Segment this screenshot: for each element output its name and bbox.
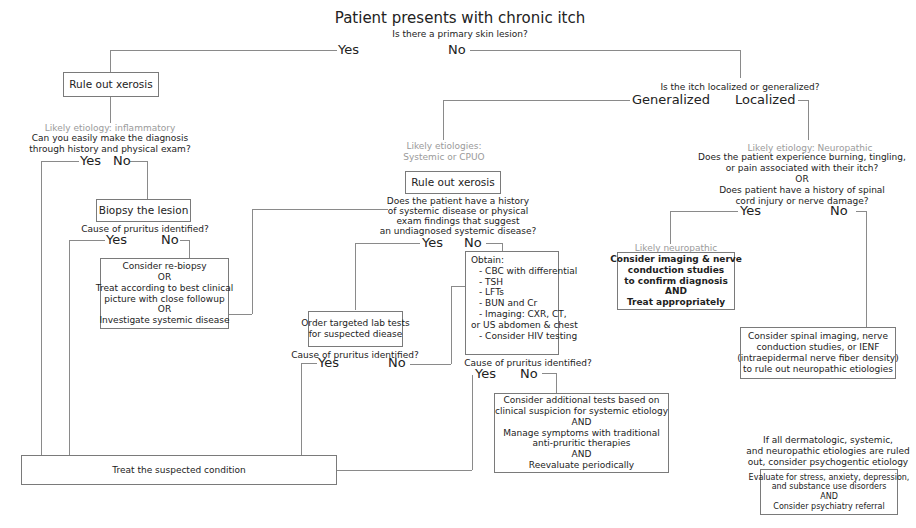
psychogenic-note-line2: and neuropathic etiologies are ruled <box>740 446 916 457</box>
systemic-etiology-label-1: Likely etiologies: <box>384 141 504 152</box>
connector-line <box>486 243 502 244</box>
diagnosis-question-line1: Can you easily make the diagnosis <box>20 133 200 144</box>
connector-line <box>856 211 866 212</box>
box-text: Rule out xerosis <box>69 78 152 91</box>
box-text: Reevaluate periodically <box>529 460 634 471</box>
rule-out-xerosis-generalized-box: Rule out xerosis <box>405 171 501 194</box>
connector-line <box>808 100 809 140</box>
neuro-question-line1: Does the patient experience burning, tin… <box>688 152 916 163</box>
box-text: picture with close followup <box>104 294 224 305</box>
systemic-yes-label: Yes <box>422 236 443 251</box>
connector-line <box>110 50 337 51</box>
box-text: Consider re-biopsy <box>122 261 206 272</box>
connector-line <box>670 211 671 244</box>
connector-line <box>69 240 70 456</box>
box-heading: Obtain: <box>471 255 504 266</box>
box-text: for suspected diease <box>309 329 403 340</box>
box-text: AND <box>665 286 687 297</box>
box-text: Consider psychiatry referral <box>773 502 884 512</box>
treat-condition-box: Treat the suspected condition <box>21 455 337 485</box>
connector-line <box>740 50 741 78</box>
box-text: clinical suspicion for systemic etiology <box>495 406 668 417</box>
psychiatry-evaluation-box: Evaluate for stress, anxiety, depression… <box>760 469 898 515</box>
root-yes-label: Yes <box>338 43 359 58</box>
box-text: and substance use disorders <box>772 482 887 492</box>
neuro-question-line4: cord injury or nerve damage? <box>688 196 916 207</box>
diagnosis-no-label: No <box>113 154 131 169</box>
diagnosis-yes-label: Yes <box>80 154 101 169</box>
box-text: Rule out xerosis <box>411 176 494 189</box>
connector-line <box>472 375 473 470</box>
box-text: anti-pruritic therapies <box>532 438 630 449</box>
box-text: Consider spinal imaging, nerve <box>748 331 888 342</box>
lab-item: or US abdomen & chest <box>471 320 578 331</box>
connector-line <box>798 100 808 101</box>
connector-line <box>41 161 42 456</box>
box-text: AND <box>572 449 592 460</box>
lab-item: - Consider HIV testing <box>471 331 577 342</box>
connector-line <box>502 243 503 251</box>
box-text: Treat according to best clinical <box>96 283 233 294</box>
connector-line <box>301 363 317 364</box>
systemic-etiology-label-2: Systemic or CPUO <box>384 152 504 163</box>
box-text: to confirm diagnosis <box>624 276 728 287</box>
box-text: OR <box>158 304 171 315</box>
box-text: Investigate systemic disease <box>99 315 229 326</box>
obtain-labs-box: Obtain: - CBC with differential - TSH - … <box>465 251 559 355</box>
box-text: Order targeted lab tests <box>301 318 409 329</box>
targeted-yes-label: Yes <box>318 356 339 371</box>
connector-line <box>451 286 465 287</box>
connector-line <box>130 161 147 162</box>
connector-line <box>110 50 111 72</box>
systemic-question-line4: an undiagnosed systemic disease? <box>363 226 553 237</box>
neuro-question-or: OR <box>688 174 916 185</box>
connector-line <box>336 470 472 471</box>
box-text: OR <box>158 272 171 283</box>
root-title: Patient presents with chronic itch <box>300 10 620 27</box>
box-text: to rule out neuropathic etiologies <box>743 364 893 375</box>
box-text: Consider imaging & nerve <box>610 254 742 265</box>
connector-line <box>301 363 302 456</box>
systemic-no-label: No <box>464 236 482 251</box>
connector-line <box>69 240 105 241</box>
connector-line <box>410 364 451 365</box>
box-text: (intraepidermal nerve fiber density) <box>737 353 898 364</box>
connector-line <box>470 50 740 51</box>
connector-line <box>41 161 79 162</box>
additional-tests-box: Consider additional tests based on clini… <box>494 393 669 473</box>
lab-item: - LFTs <box>471 287 504 298</box>
biopsy-no-label: No <box>161 233 179 248</box>
root-question: Is there a primary skin lesion? <box>330 29 590 40</box>
connector-line <box>355 243 356 310</box>
psychogenic-note-line1: If all dermatologic, systemic, <box>740 435 916 446</box>
neuro-no-label: No <box>830 204 848 219</box>
connector-line <box>542 373 556 374</box>
rule-out-xerosis-box: Rule out xerosis <box>63 72 159 97</box>
nerve-studies-box: Consider imaging & nerve conduction stud… <box>617 252 735 310</box>
diagnosis-question-line2: through history and physical exam? <box>20 144 200 155</box>
box-text: Treat the suspected condition <box>112 465 245 476</box>
spinal-imaging-box: Consider spinal imaging, nerve conductio… <box>740 327 896 379</box>
box-text: Biopsy the lesion <box>99 204 189 217</box>
box-text: conduction studies <box>628 265 724 276</box>
root-no-label: No <box>448 43 466 58</box>
lab-item: - BUN and Cr <box>471 298 537 309</box>
connector-line <box>451 286 452 364</box>
connector-line <box>443 100 630 101</box>
connector-line <box>556 373 557 393</box>
rebiopsy-box: Consider re-biopsy OR Treat according to… <box>100 258 229 329</box>
connector-line <box>866 211 867 327</box>
biopsy-yes-label: Yes <box>106 233 127 248</box>
psychogenic-note-line3: out, consider psychogentic etiology <box>740 457 916 468</box>
connector-line <box>443 100 444 140</box>
targeted-lab-tests-box: Order targeted lab tests for suspected d… <box>308 311 403 347</box>
targeted-no-label: No <box>388 356 406 371</box>
connector-line <box>252 209 253 314</box>
neuro-question-line3: Does patient have a history of spinal <box>688 185 916 196</box>
generalized-label: Generalized <box>632 93 710 108</box>
connector-line <box>229 314 252 315</box>
obtain-no-label: No <box>520 367 538 382</box>
connector-line <box>189 240 190 258</box>
box-text: Evaluate for stress, anxiety, depression… <box>749 473 910 483</box>
biopsy-question: Cause of pruritus identified? <box>70 224 220 235</box>
